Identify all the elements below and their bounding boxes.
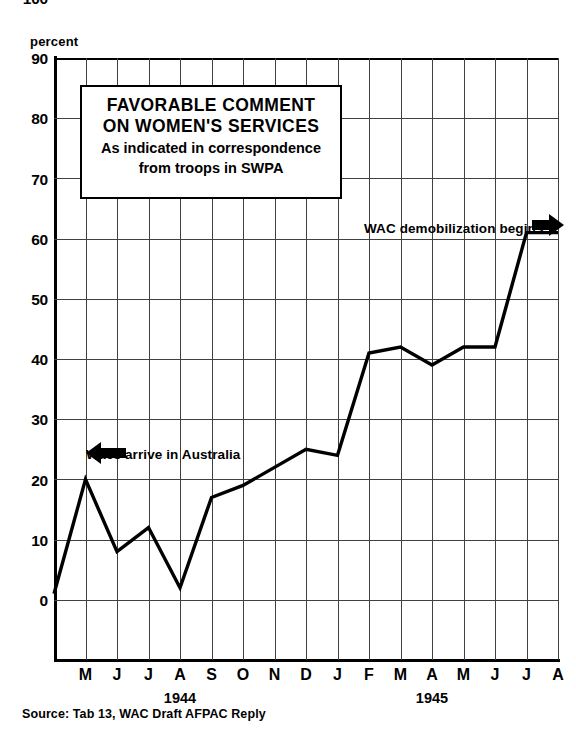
- chart-title-card: FAVORABLE COMMENT ON WOMEN'S SERVICES As…: [80, 85, 342, 199]
- source-note: Source: Tab 13, WAC Draft AFPAC Reply: [22, 707, 266, 721]
- y-axis-tick-label: 10: [6, 532, 48, 550]
- x-axis-year-label: 1944: [145, 690, 215, 706]
- chart-subtitle-line-1: As indicated in correspondence: [82, 139, 340, 159]
- right-arrow-icon: [532, 212, 564, 238]
- y-axis-tick-label: 70: [6, 171, 48, 189]
- x-axis-tick-label: F: [352, 666, 386, 684]
- x-axis-tick-label: M: [447, 666, 481, 684]
- gridline-vertical: [558, 58, 559, 660]
- chart-title-line-1: FAVORABLE COMMENT: [82, 95, 340, 116]
- x-axis-tick-label: S: [195, 666, 229, 684]
- y-axis-tick-label: 80: [6, 110, 48, 128]
- x-axis-tick-label: J: [132, 666, 166, 684]
- y-axis-tick-label: 90: [6, 50, 48, 68]
- x-axis-tick-label: A: [415, 666, 449, 684]
- x-axis-tick-label: M: [69, 666, 103, 684]
- chart-subtitle-line-2: from troops in SWPA: [82, 159, 340, 179]
- x-axis-tick-label: J: [510, 666, 544, 684]
- left-arrow-icon: [86, 440, 128, 466]
- x-axis-tick-label: J: [478, 666, 512, 684]
- chart-title-line-2: ON WOMEN'S SERVICES: [82, 116, 340, 137]
- x-axis-year-label: 1945: [397, 690, 467, 706]
- x-axis-tick-label: J: [321, 666, 355, 684]
- x-axis-tick-label: N: [258, 666, 292, 684]
- y-axis-tick-labels: 0102030405060708090100: [0, 0, 48, 602]
- y-axis-tick-label: 20: [6, 472, 48, 490]
- x-axis-tick-label: M: [384, 666, 418, 684]
- chart-figure: percent 0102030405060708090100 FAVORABLE…: [0, 0, 576, 738]
- x-axis-tick-label: D: [289, 666, 323, 684]
- x-axis-tick-label: O: [226, 666, 260, 684]
- annotation-wac-demobilization: WAC demobilization begins: [364, 221, 544, 236]
- x-axis-tick-label: A: [163, 666, 197, 684]
- y-axis-tick-label: 40: [6, 351, 48, 369]
- y-axis-tick-label: 100: [6, 0, 48, 8]
- y-axis-tick-label: 50: [6, 291, 48, 309]
- y-axis-tick-label: 30: [6, 411, 48, 429]
- y-axis-tick-label: 60: [6, 231, 48, 249]
- x-axis-tick-label: J: [100, 666, 134, 684]
- y-axis-tick-label: 0: [6, 592, 48, 610]
- x-axis-tick-label: A: [541, 666, 575, 684]
